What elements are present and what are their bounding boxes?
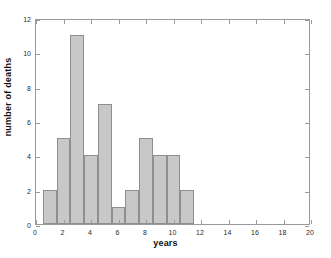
- x-tick-top: [201, 20, 202, 24]
- x-tick: [119, 220, 120, 224]
- y-tick-right: [305, 89, 309, 90]
- y-tick-right: [305, 192, 309, 193]
- y-tick-label: 10: [13, 49, 31, 58]
- histogram-bar: [153, 155, 167, 224]
- y-tick-label: 2: [13, 186, 31, 195]
- histogram-bar: [139, 138, 153, 224]
- x-tick: [36, 220, 37, 224]
- y-tick: [36, 192, 40, 193]
- x-tick: [229, 220, 230, 224]
- y-tick-right: [305, 157, 309, 158]
- x-tick-top: [146, 20, 147, 24]
- histogram-bar: [180, 190, 194, 224]
- x-tick-top: [91, 20, 92, 24]
- x-tick-top: [174, 20, 175, 24]
- x-tick: [146, 220, 147, 224]
- x-tick-label: 14: [224, 228, 232, 237]
- x-tick-top: [311, 20, 312, 24]
- x-tick-label: 2: [61, 228, 65, 237]
- x-tick: [64, 220, 65, 224]
- y-tick: [36, 54, 40, 55]
- y-tick-right: [305, 123, 309, 124]
- x-tick: [91, 220, 92, 224]
- y-tick: [36, 123, 40, 124]
- histogram-bar: [84, 155, 98, 224]
- y-tick-label: 0: [13, 221, 31, 230]
- x-tick-label: 20: [306, 228, 314, 237]
- x-axis-title: years: [0, 238, 331, 248]
- histogram-bar: [70, 35, 84, 224]
- plot-area: [36, 20, 309, 224]
- y-tick-label: 6: [13, 118, 31, 127]
- x-tick-top: [119, 20, 120, 24]
- histogram-figure: 02468101214161820 024681012 years number…: [0, 0, 331, 258]
- plot-frame: [35, 19, 310, 225]
- x-tick-top: [284, 20, 285, 24]
- histogram-bar: [167, 155, 181, 224]
- y-tick: [36, 157, 40, 158]
- x-tick-label: 10: [169, 228, 177, 237]
- y-tick: [36, 226, 40, 227]
- y-tick: [36, 20, 40, 21]
- y-axis-title: number of deaths: [3, 42, 13, 152]
- x-tick: [256, 220, 257, 224]
- histogram-bar: [125, 190, 139, 224]
- histogram-bar: [98, 104, 112, 224]
- x-tick-label: 0: [33, 228, 37, 237]
- y-tick-label: 12: [13, 15, 31, 24]
- x-tick-label: 18: [279, 228, 287, 237]
- x-tick-label: 4: [88, 228, 92, 237]
- x-tick-label: 6: [116, 228, 120, 237]
- y-tick: [36, 89, 40, 90]
- histogram-bar: [43, 190, 57, 224]
- x-tick: [201, 220, 202, 224]
- y-tick-right: [305, 226, 309, 227]
- x-tick-top: [64, 20, 65, 24]
- x-tick: [311, 220, 312, 224]
- histogram-bar: [57, 138, 71, 224]
- x-tick-label: 8: [143, 228, 147, 237]
- x-tick-top: [229, 20, 230, 24]
- x-tick: [174, 220, 175, 224]
- x-tick-label: 16: [251, 228, 259, 237]
- y-tick-label: 4: [13, 152, 31, 161]
- y-tick-label: 8: [13, 83, 31, 92]
- y-tick-right: [305, 20, 309, 21]
- x-tick-top: [256, 20, 257, 24]
- y-tick-right: [305, 54, 309, 55]
- x-tick: [284, 220, 285, 224]
- x-tick-label: 12: [196, 228, 204, 237]
